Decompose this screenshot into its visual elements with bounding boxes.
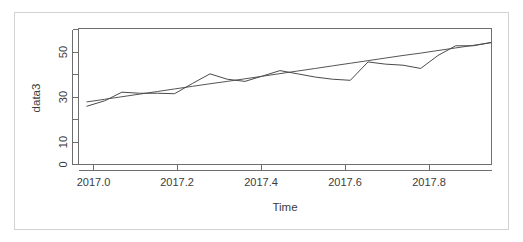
y-tick-label-30: 30: [57, 91, 69, 103]
x-tick-label-2017-8: 2017.8: [412, 176, 446, 188]
y-tick-label-50: 50: [57, 46, 69, 58]
y-tick-label-10: 10: [57, 136, 69, 148]
x-tick-label-2017-6: 2017.6: [328, 176, 362, 188]
x-tick-label-2017-2: 2017.2: [160, 176, 194, 188]
y-axis-ticks: [73, 30, 79, 165]
chart-plot: 0 10 30 50 data3 2017.0 2017.2 2017.4 20…: [0, 0, 523, 242]
x-axis: 2017.0 2017.2 2017.4 2017.6 2017.8 Time: [77, 165, 492, 214]
y-axis-title: data3: [30, 84, 42, 113]
x-axis-title: Time: [272, 201, 297, 213]
screenshot-root: 0 10 30 50 data3 2017.0 2017.2 2017.4 20…: [0, 0, 523, 242]
x-tick-label-2017-4: 2017.4: [244, 176, 278, 188]
y-axis: 0 10 30 50 data3: [30, 30, 78, 168]
x-tick-label-2017-0: 2017.0: [77, 176, 111, 188]
plot-panel-border: [79, 29, 492, 165]
x-axis-ticks: [94, 165, 430, 171]
y-tick-label-0: 0: [57, 161, 69, 167]
